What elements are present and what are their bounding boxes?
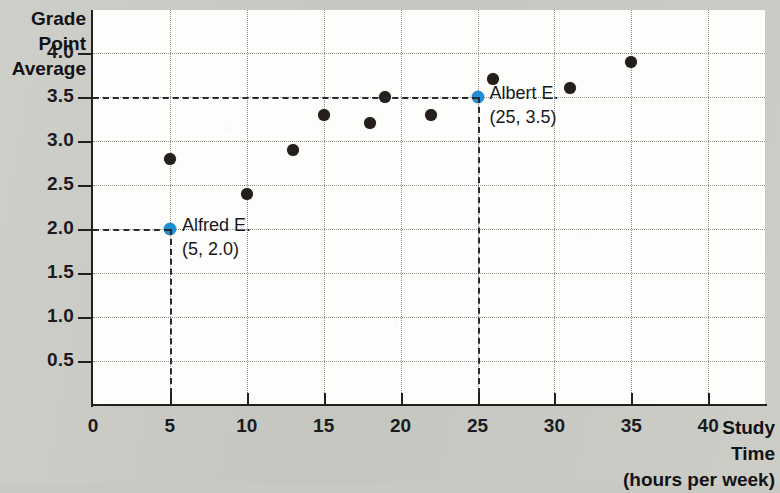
- y-axis-title-line-3: Average: [8, 56, 86, 81]
- leader-line-horizontal-3.5: [93, 97, 478, 99]
- data-point-13-2.9: [287, 144, 299, 156]
- y-axis-title-line-1: Grade: [8, 6, 86, 31]
- x-tick-label-15: 15: [301, 415, 347, 437]
- x-axis-title: StudyTime(hours per week): [560, 415, 775, 493]
- gridline-x-15: [324, 10, 325, 405]
- x-tick-25: [478, 393, 480, 406]
- annotation-coords-2: (25, 3.5): [490, 105, 557, 129]
- y-axis-line: [91, 10, 93, 407]
- leader-line-horizontal-2: [93, 229, 170, 231]
- y-tick-label-1.0: 1.0: [8, 305, 74, 327]
- x-tick-label-10: 10: [224, 415, 270, 437]
- data-point-18-3.2: [364, 117, 376, 129]
- annotation-coords-1: (5, 2.0): [182, 237, 239, 261]
- gridline-y-3.0: [93, 141, 765, 142]
- y-tick-label-0.5: 0.5: [8, 349, 74, 371]
- gridline-x-10: [247, 10, 248, 405]
- gridline-y-0.5: [93, 361, 765, 362]
- x-tick-10: [247, 393, 249, 406]
- x-tick-5: [170, 393, 172, 406]
- x-tick-30: [554, 393, 556, 406]
- plot-area: Alfred E.(5, 2.0)Albert E.(25, 3.5): [93, 10, 765, 405]
- x-tick-label-25: 25: [455, 415, 501, 437]
- x-axis-line: [91, 404, 767, 406]
- annotation-name-1: Alfred E.: [182, 213, 251, 237]
- y-axis-title: GradePointAverage: [8, 6, 86, 81]
- y-tick-2.5: [78, 185, 92, 187]
- y-tick-label-2.5: 2.5: [8, 173, 74, 195]
- y-axis-title-line-2: Point: [8, 31, 86, 56]
- gridline-x-20: [401, 10, 402, 405]
- y-tick-1.0: [78, 317, 92, 319]
- x-tick-label-0: 0: [70, 415, 116, 437]
- data-point-22-3.3: [425, 109, 437, 121]
- data-point-10-2.4: [241, 188, 253, 200]
- x-axis-title-line-1: Study: [560, 415, 775, 441]
- gridline-y-2.5: [93, 185, 765, 186]
- gridline-x-30: [554, 10, 555, 405]
- y-tick-label-3.5: 3.5: [8, 85, 74, 107]
- y-tick-label-3.0: 3.0: [8, 129, 74, 151]
- y-tick-2.0: [78, 229, 92, 231]
- x-axis-title-line-2: Time: [560, 441, 775, 467]
- x-tick-label-5: 5: [147, 415, 193, 437]
- gridline-y-1.0: [93, 317, 765, 318]
- y-tick-0.5: [78, 361, 92, 363]
- gridline-y-4.0: [93, 53, 765, 54]
- data-point-31-3.6: [564, 82, 576, 94]
- x-tick-label-20: 20: [378, 415, 424, 437]
- y-tick-3.5: [78, 97, 92, 99]
- leader-line-vertical-5: [170, 229, 172, 404]
- y-tick-label-1.5: 1.5: [8, 261, 74, 283]
- gridline-y-1.5: [93, 273, 765, 274]
- annotation-name-2: Albert E.: [490, 81, 559, 105]
- x-axis-title-line-3: (hours per week): [560, 467, 775, 493]
- y-tick-1.5: [78, 273, 92, 275]
- y-tick-label-2.0: 2.0: [8, 217, 74, 239]
- gridline-x-40: [708, 10, 709, 405]
- x-tick-35: [631, 393, 633, 406]
- data-point-35-3.9: [625, 56, 637, 68]
- paper-texture: [93, 10, 765, 405]
- x-tick-20: [401, 393, 403, 406]
- y-tick-3.0: [78, 141, 92, 143]
- x-tick-15: [324, 393, 326, 406]
- x-tick-40: [708, 393, 710, 406]
- leader-line-vertical-25: [478, 97, 480, 404]
- data-point-15-3.3: [318, 109, 330, 121]
- data-point-5-2.8: [164, 153, 176, 165]
- gridline-x-35: [631, 10, 632, 405]
